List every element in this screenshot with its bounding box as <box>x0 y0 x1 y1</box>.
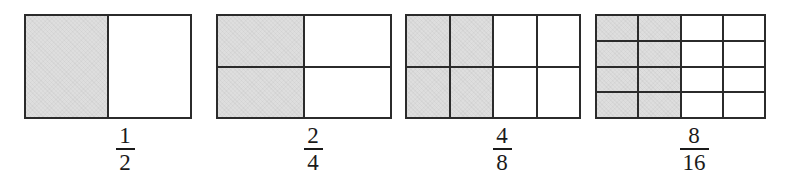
unshaded-cell <box>682 68 722 92</box>
shaded-cell <box>451 68 493 118</box>
unshaded-cell <box>724 42 764 66</box>
fraction-denominator: 4 <box>304 150 322 174</box>
shaded-cell <box>639 16 679 40</box>
shaded-cell <box>26 16 107 117</box>
area-model-1 <box>24 14 192 119</box>
shaded-cell <box>639 93 679 117</box>
unshaded-cell <box>109 16 190 117</box>
area-model-grid <box>216 14 392 119</box>
unshaded-cell <box>682 42 722 66</box>
area-model-3 <box>405 14 581 119</box>
fraction-numerator: 8 <box>685 124 703 148</box>
fraction-denominator: 16 <box>680 150 709 174</box>
shaded-cell <box>597 42 637 66</box>
fraction-numerator: 2 <box>304 124 322 148</box>
shaded-cell <box>407 16 449 66</box>
area-model-grid <box>24 14 192 119</box>
area-model-grid <box>595 14 766 119</box>
unshaded-cell <box>494 68 536 118</box>
shaded-cell <box>639 68 679 92</box>
unshaded-cell <box>305 68 390 118</box>
area-model-4 <box>595 14 766 119</box>
unshaded-cell <box>724 68 764 92</box>
shaded-cell <box>639 42 679 66</box>
unshaded-cell <box>538 68 580 118</box>
fraction-denominator: 2 <box>116 150 134 174</box>
area-model-2 <box>216 14 392 119</box>
shaded-cell <box>451 16 493 66</box>
fraction-numerator: 4 <box>493 124 511 148</box>
shaded-cell <box>218 68 303 118</box>
shaded-cell <box>597 16 637 40</box>
unshaded-cell <box>724 16 764 40</box>
unshaded-cell <box>682 93 722 117</box>
area-model-grid <box>405 14 581 119</box>
equivalent-fractions-figure: 122448816 <box>0 0 791 185</box>
unshaded-cell <box>305 16 390 66</box>
fraction-label-3: 48 <box>493 124 512 174</box>
fraction-label-2: 24 <box>304 124 323 174</box>
fraction-numerator: 1 <box>116 124 134 148</box>
fraction-denominator: 8 <box>493 150 511 174</box>
shaded-cell <box>597 68 637 92</box>
unshaded-cell <box>494 16 536 66</box>
fraction-label-1: 12 <box>116 124 135 174</box>
unshaded-cell <box>538 16 580 66</box>
shaded-cell <box>597 93 637 117</box>
fraction-label-4: 816 <box>680 124 709 174</box>
shaded-cell <box>407 68 449 118</box>
shaded-cell <box>218 16 303 66</box>
unshaded-cell <box>682 16 722 40</box>
unshaded-cell <box>724 93 764 117</box>
